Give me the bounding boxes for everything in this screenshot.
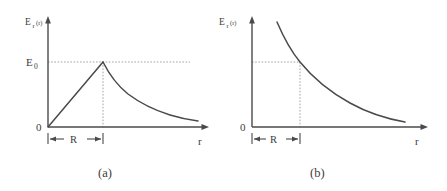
panel-b-caption: (b) bbox=[310, 166, 325, 180]
panel-b-y-axis-label-arg: (r) bbox=[230, 19, 237, 27]
panel-b: E r (r) 0 r R (b) bbox=[219, 16, 428, 180]
panel-b-x-axis-arrowhead bbox=[421, 124, 429, 130]
panel-b-y-axis-arrowhead bbox=[249, 16, 255, 24]
panel-a: E r (r) E 0 0 r R (a) bbox=[25, 16, 209, 180]
panel-b-origin-label: 0 bbox=[240, 121, 246, 133]
panel-a-y-axis-label-arg: (r) bbox=[36, 19, 43, 27]
panel-a-y-axis-label-base: E bbox=[25, 17, 31, 27]
panel-a-y-tick-e0-base: E bbox=[26, 56, 33, 68]
panel-a-x-axis-label: r bbox=[198, 135, 202, 147]
panel-b-dimension-bracket: R bbox=[252, 133, 300, 145]
panel-b-dimension-arrowhead-right bbox=[292, 137, 298, 142]
panel-a-curve-inside bbox=[48, 62, 103, 127]
panel-b-dimension-arrowhead-left bbox=[254, 137, 260, 142]
panel-a-dimension-arrowhead-left bbox=[50, 137, 56, 142]
panel-b-dimension-label: R bbox=[270, 134, 277, 145]
panel-a-caption: (a) bbox=[98, 166, 112, 180]
panel-a-y-tick-e0-sub: 0 bbox=[34, 62, 38, 71]
panel-b-curve bbox=[277, 22, 405, 122]
figure-container: E r (r) E 0 0 r R (a) bbox=[0, 0, 447, 191]
panel-b-x-axis-label: r bbox=[415, 135, 419, 147]
panel-a-dimension-label: R bbox=[70, 134, 77, 145]
panel-a-dimension-bracket: R bbox=[48, 133, 103, 145]
panel-a-origin-label: 0 bbox=[36, 121, 42, 133]
panel-a-x-axis-arrowhead bbox=[202, 124, 210, 130]
panel-b-y-axis-label-base: E bbox=[219, 17, 225, 27]
panel-b-y-axis-label: E r (r) bbox=[219, 17, 237, 29]
panel-a-curve-outside bbox=[103, 62, 198, 121]
panel-a-y-tick-e0: E 0 bbox=[26, 56, 38, 71]
panel-a-y-axis-label: E r (r) bbox=[25, 17, 43, 29]
panel-a-y-axis-arrowhead bbox=[45, 16, 51, 24]
panel-a-dimension-arrowhead-right bbox=[95, 137, 101, 142]
